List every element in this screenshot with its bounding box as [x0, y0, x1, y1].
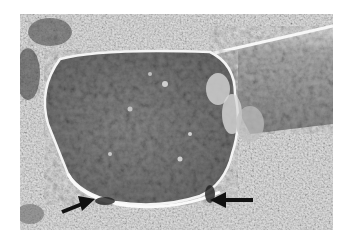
- micrograph-svg: [20, 14, 333, 230]
- sem-micrograph: [20, 14, 333, 230]
